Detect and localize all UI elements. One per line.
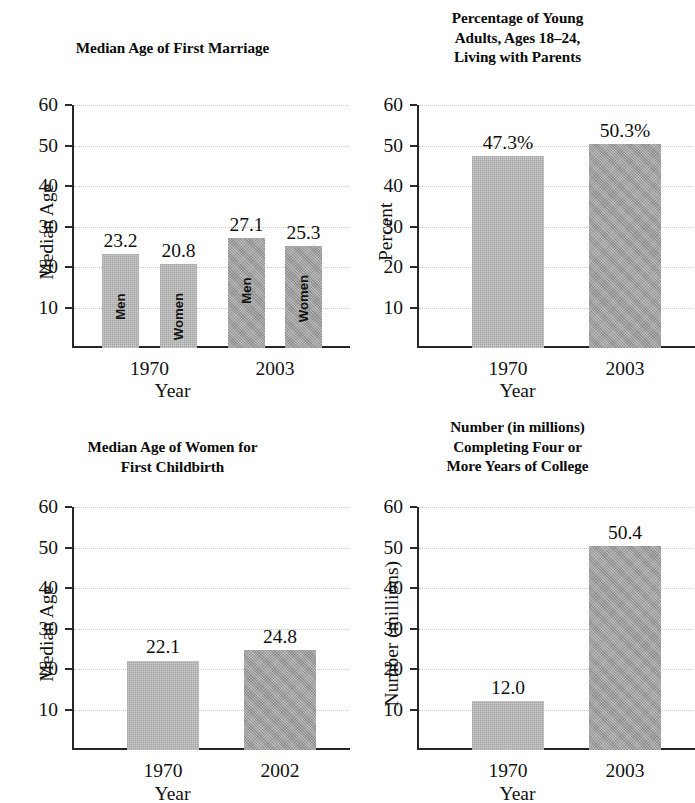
bar-value-label: 23.2	[88, 231, 153, 251]
y-axis-tick-label: 10	[0, 298, 58, 318]
plot-area: 10203040506023.2Men20.8Women27.1Men25.3W…	[72, 105, 348, 348]
y-axis-tick-label: 60	[343, 95, 403, 115]
y-axis-tick	[410, 547, 417, 549]
plot-area: 10203040506047.3%50.3%19702003	[417, 105, 693, 348]
gridline	[74, 146, 348, 147]
bar-value-label: 50.3%	[575, 121, 675, 141]
gridline	[74, 548, 348, 549]
y-axis-tick	[410, 226, 417, 228]
gridline	[74, 105, 348, 106]
y-axis-tick	[410, 104, 417, 106]
y-axis-title: Percent	[376, 172, 396, 292]
bar-series-label: Men	[114, 272, 127, 342]
bar-value-label: 24.8	[230, 627, 330, 647]
y-axis-tick	[65, 185, 72, 187]
y-axis-tick	[410, 709, 417, 711]
chart-title-line-2: Adults, Ages 18–24,	[345, 28, 690, 48]
y-axis-tick-label: 10	[343, 298, 403, 318]
chart-title-line-1: Number (in millions)	[345, 417, 690, 437]
x-axis-title: Year	[0, 381, 345, 401]
x-axis-title: Year	[0, 784, 345, 803]
gridline	[74, 588, 348, 589]
y-axis-tick	[410, 506, 417, 508]
gridline	[419, 105, 693, 106]
x-axis-category-label: 1970	[118, 761, 208, 781]
y-axis-title: Median Age	[37, 172, 57, 292]
y-axis-tick-label: 50	[0, 136, 58, 156]
gridline	[74, 507, 348, 508]
y-axis-tick	[410, 185, 417, 187]
panel-completing-four-or-more-years-college: Number (in millions) Completing Four or …	[345, 400, 690, 803]
bar-value-label: 25.3	[271, 223, 336, 243]
y-axis-tick-label: 60	[0, 95, 58, 115]
y-axis-tick	[65, 547, 72, 549]
gridline	[74, 186, 348, 187]
bar-series-label: Women	[297, 263, 310, 333]
y-axis-tick-label: 50	[0, 538, 58, 558]
x-axis-category-label: 2002	[235, 761, 325, 781]
y-axis-tick	[65, 668, 72, 670]
y-axis-tick-label: 50	[343, 136, 403, 156]
y-axis-title: Median Age	[37, 574, 57, 694]
chart-title-line-3: More Years of College	[345, 456, 690, 476]
bar-value-label: 27.1	[214, 215, 279, 235]
panel-median-age-women-first-childbirth: Median Age of Women for First Childbirth…	[0, 400, 345, 803]
bar	[472, 701, 544, 750]
bar	[127, 661, 199, 751]
bar-value-label: 20.8	[146, 241, 211, 261]
y-axis-tick	[65, 104, 72, 106]
bar	[589, 546, 661, 750]
bar-value-label: 50.4	[575, 523, 675, 543]
plot-area: 10203040506012.050.419702003	[417, 507, 693, 750]
x-axis-category-label: 2003	[580, 761, 670, 781]
y-axis-tick-label: 60	[0, 497, 58, 517]
x-axis-title: Year	[345, 784, 690, 803]
y-axis-tick	[65, 226, 72, 228]
x-axis-category-label: 1970	[105, 359, 195, 379]
y-axis-tick	[410, 266, 417, 268]
bar-value-label: 12.0	[458, 678, 558, 698]
x-axis-category-label: 2003	[580, 359, 670, 379]
bar	[472, 156, 544, 348]
y-axis-tick	[65, 628, 72, 630]
bar	[244, 650, 316, 750]
bar	[589, 144, 661, 348]
y-axis-tick	[410, 668, 417, 670]
x-axis-title: Year	[345, 381, 690, 401]
y-axis-tick-label: 10	[0, 700, 58, 720]
plot-area: 10203040506022.124.819702002	[72, 507, 348, 750]
y-axis-tick	[65, 307, 72, 309]
y-axis-tick	[65, 709, 72, 711]
bar-value-label: 22.1	[113, 637, 213, 657]
y-axis-tick	[65, 587, 72, 589]
y-axis-tick	[65, 145, 72, 147]
chart-title-line-2: First Childbirth	[0, 457, 345, 477]
bar-value-label: 47.3%	[458, 133, 558, 153]
chart-title-line-3: Living with Parents	[345, 47, 690, 67]
y-axis-tick-label: 60	[343, 497, 403, 517]
panel-median-age-first-marriage: Median Age of First Marriage 10203040506…	[0, 0, 345, 400]
panel-young-adults-living-with-parents: Percentage of Young Adults, Ages 18–24, …	[345, 0, 690, 400]
gridline	[419, 507, 693, 508]
chart-title-line-1: Percentage of Young	[345, 8, 690, 28]
y-axis-tick	[65, 506, 72, 508]
y-axis-tick	[410, 307, 417, 309]
x-axis-category-label: 1970	[463, 761, 553, 781]
y-axis-tick	[410, 628, 417, 630]
y-axis-tick	[410, 145, 417, 147]
x-axis-category-label: 2003	[230, 359, 320, 379]
chart-title-line-1: Median Age of Women for	[0, 437, 345, 457]
y-axis-tick	[410, 587, 417, 589]
chart-title: Median Age of First Marriage	[0, 38, 345, 58]
chart-title-line-2: Completing Four or	[345, 437, 690, 457]
bar-series-label: Women	[172, 281, 185, 351]
bar-series-label: Men	[240, 256, 253, 326]
y-axis-title: Number (millions)	[382, 539, 402, 729]
x-axis-category-label: 1970	[463, 359, 553, 379]
y-axis-tick	[65, 266, 72, 268]
